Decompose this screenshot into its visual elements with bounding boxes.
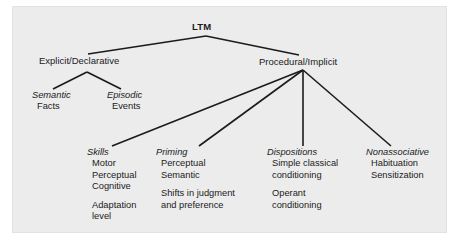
label-episodic-events: Events	[107, 101, 142, 112]
edge-procedural-to-priming	[199, 70, 303, 146]
label-skills: Skills	[87, 147, 136, 158]
label-dispositions-item2-1: Operant	[267, 188, 338, 199]
label-priming: Priming	[156, 147, 235, 158]
label-dispositions-item-2: conditioning	[267, 170, 338, 181]
label-nonassociative: Nonassociative	[366, 147, 429, 158]
label-skills-item-2: Perceptual	[87, 170, 136, 181]
edge-procedural-to-nonassociative	[303, 70, 391, 146]
label-skills-item-3: Cognitive	[87, 181, 136, 192]
label-nonassociative-item-2: Sensitization	[366, 170, 429, 181]
edge-ltm-to-explicit	[88, 36, 206, 54]
group-skills: Skills Motor Perceptual Cognitive Adapta…	[87, 147, 136, 222]
edge-ltm-to-procedural	[206, 36, 299, 55]
ltm-taxonomy-figure: LTM Explicit/Declarative Procedural/Impl…	[0, 0, 460, 247]
spacer	[87, 193, 136, 200]
label-episodic: Episodic	[107, 90, 142, 101]
group-priming: Priming Perceptual Semantic Shifts in ju…	[156, 147, 235, 211]
edge-explicit-to-episodic	[87, 72, 121, 89]
label-nonassociative-item-1: Habituation	[366, 158, 429, 169]
node-procedural-implicit: Procedural/Implicit	[259, 57, 337, 67]
node-explicit-declarative: Explicit/Declarative	[39, 56, 119, 66]
label-skills-item2-2: level	[87, 211, 136, 222]
label-priming-item-2: Semantic	[156, 170, 235, 181]
label-priming-item2-1: Shifts in judgment	[156, 188, 235, 199]
label-dispositions-item2-2: conditioning	[267, 200, 338, 211]
label-semantic-facts: Facts	[32, 101, 71, 112]
label-dispositions-item-1: Simple classical	[267, 158, 338, 169]
label-dispositions: Dispositions	[267, 147, 338, 158]
node-ltm: LTM	[192, 22, 211, 32]
group-dispositions: Dispositions Simple classical conditioni…	[267, 147, 338, 211]
edge-explicit-to-semantic	[53, 72, 87, 89]
label-skills-item-1: Motor	[87, 158, 136, 169]
label-priming-item2-2: and preference	[156, 200, 235, 211]
label-semantic: Semantic	[32, 90, 71, 101]
group-nonassociative: Nonassociative Habituation Sensitization	[366, 147, 429, 181]
group-semantic: Semantic Facts	[32, 90, 71, 113]
label-skills-item2-1: Adaptation	[87, 200, 136, 211]
spacer	[267, 181, 338, 188]
label-priming-item-1: Perceptual	[156, 158, 235, 169]
spacer	[156, 181, 235, 188]
group-episodic: Episodic Events	[107, 90, 142, 113]
